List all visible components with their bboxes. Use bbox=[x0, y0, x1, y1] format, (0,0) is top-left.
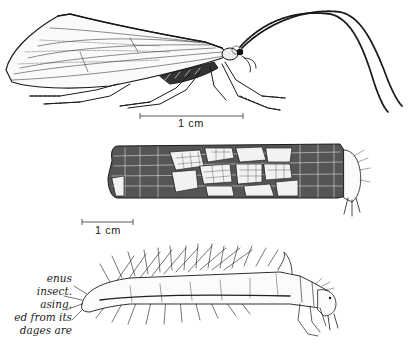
larva-drawing bbox=[64, 244, 338, 336]
figure-caption-fragment: enus insect. asing. ed from its dages ar… bbox=[0, 272, 72, 337]
scale-bar-top-label: 1 cm bbox=[178, 117, 204, 129]
caption-line: dages are bbox=[0, 324, 72, 337]
caption-line: insect. bbox=[0, 285, 72, 298]
caption-line: asing. bbox=[0, 298, 72, 311]
larval-case-drawing bbox=[108, 144, 370, 216]
caption-line: enus bbox=[0, 272, 72, 285]
adult-insect-drawing bbox=[6, 11, 402, 112]
scale-bar-bottom-label: 1 cm bbox=[95, 224, 121, 236]
caption-line: ed from its bbox=[0, 311, 72, 324]
